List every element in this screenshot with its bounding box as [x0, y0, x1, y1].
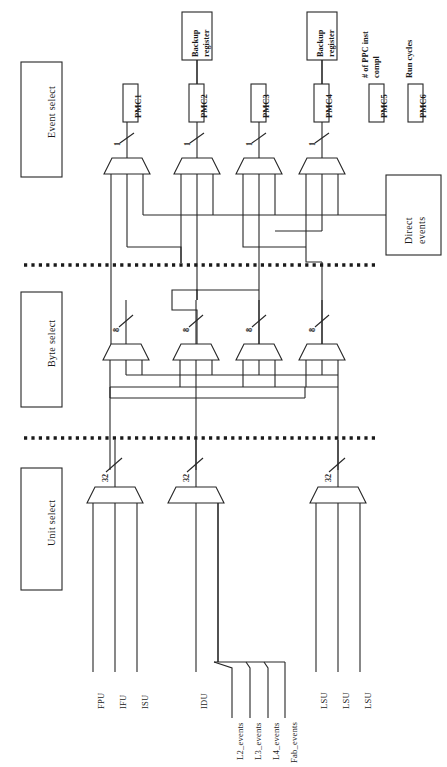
bus-label-unit-2: 32 — [183, 474, 192, 482]
nest-stub-l3 — [246, 662, 250, 718]
signal-label-ifu: IFU — [119, 695, 128, 709]
carrier-byte-4b — [306, 247, 322, 262]
nest-stub-l4 — [264, 662, 268, 718]
signal-label-l2-events: L2_events — [236, 722, 245, 760]
byte-mux-4 — [299, 344, 345, 360]
event-route-2 — [243, 231, 306, 247]
backup-register-pmc4-label: Backupregister — [316, 30, 338, 57]
panel-label-byte-select: Byte select — [47, 320, 58, 367]
signal-label-idu: IDU — [200, 693, 209, 709]
nest-stub-l2 — [214, 662, 232, 718]
byte-mux-1 — [103, 344, 149, 360]
bus-label-event-4: 1 — [309, 142, 318, 146]
direct-events-line1: Directevents — [403, 217, 427, 244]
backup-register-pmc2-label: Backupregister — [191, 30, 213, 57]
event-mux-1 — [104, 158, 150, 174]
panel-label-unit-select: Unit select — [47, 500, 58, 546]
bus-label-byte-1: 8 — [113, 328, 122, 332]
diagram-canvas: Event select Byte select Unit select Dir… — [0, 0, 447, 767]
event-mux-2 — [174, 158, 220, 174]
pmc2-label: PMC2 — [200, 94, 209, 118]
pmc1-label: PMC1 — [134, 94, 143, 118]
unit-mux-2 — [168, 487, 224, 503]
direct-events-label: Directevents — [403, 217, 428, 244]
bus-label-unit-3: 32 — [325, 474, 334, 482]
bus-label-byte-4: 8 — [309, 328, 318, 332]
byte-mux-2 — [173, 344, 219, 360]
event-route-1 — [127, 247, 181, 263]
signal-label-l3-events: L3_events — [254, 722, 263, 760]
unit-mux-1 — [87, 487, 143, 503]
bus-label-byte-2: 8 — [183, 328, 192, 332]
signal-label-fpu: FPU — [97, 693, 106, 709]
unit-mux-1-slash — [106, 458, 122, 472]
event-mux-4 — [299, 158, 345, 174]
bus-label-unit-1: 32 — [102, 474, 111, 482]
byte-mux-3 — [236, 344, 282, 360]
pmc4-label: PMC4 — [325, 94, 334, 118]
bus-label-event-2: 1 — [184, 142, 193, 146]
pmc5-annotation: # of PPC instcompl — [361, 31, 383, 78]
bus-label-event-3: 1 — [246, 142, 255, 146]
panel-label-event-select: Event select — [47, 86, 58, 138]
signal-label-fab-events: Fab_events — [290, 722, 299, 763]
event-mux-3 — [236, 158, 282, 174]
signal-label-lsu-1: LSU — [320, 692, 329, 709]
bus-label-byte-3: 8 — [246, 328, 255, 332]
unit-mux-2-slash — [187, 458, 203, 472]
signal-label-l4-events: L4_events — [272, 722, 281, 760]
signal-label-isu: ISU — [141, 695, 150, 709]
pmc6-annotation: Run cycles — [406, 40, 415, 78]
unit-mux-3-slash — [329, 458, 345, 472]
signal-label-lsu-3: LSU — [364, 692, 373, 709]
signal-label-lsu-2: LSU — [342, 692, 351, 709]
pmc6-label: PMC6 — [419, 94, 428, 118]
unit-mux-3 — [310, 487, 366, 503]
bus-label-event-1: 1 — [114, 142, 123, 146]
carrier-byte-2 — [172, 290, 197, 344]
pmc5-label: PMC5 — [380, 94, 389, 118]
pmc3-label: PMC3 — [262, 94, 271, 118]
